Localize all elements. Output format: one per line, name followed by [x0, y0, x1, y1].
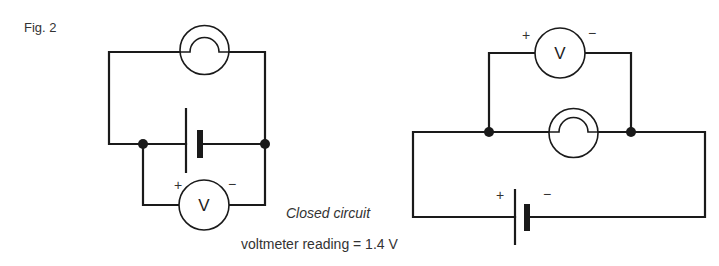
battery-icon	[515, 189, 527, 245]
voltmeter-minus-sign: −	[228, 176, 236, 192]
lamp-icon	[180, 26, 229, 75]
voltmeter-plus-sign: +	[174, 177, 182, 193]
figure-caption: Closed circuit	[286, 205, 370, 221]
junction-node	[484, 127, 494, 137]
voltmeter-plus-sign: +	[522, 27, 530, 43]
junction-node	[626, 127, 636, 137]
battery-minus-sign: −	[543, 186, 551, 202]
right-voltmeter-wire-left	[489, 53, 535, 132]
voltmeter-symbol: V	[554, 44, 566, 63]
left-circuit: V + −	[109, 26, 270, 231]
battery-plus-sign: +	[496, 187, 504, 203]
left-voltmeter-wire-right	[229, 144, 265, 205]
left-outer-wire-left	[109, 52, 186, 144]
voltmeter-icon: V	[179, 180, 229, 230]
circuit-diagrams: V + − V + − + −	[0, 0, 719, 266]
voltmeter-symbol: V	[198, 196, 210, 215]
voltmeter-minus-sign: −	[588, 25, 596, 41]
voltmeter-reading: voltmeter reading = 1.4 V	[241, 236, 398, 252]
battery-icon	[186, 108, 200, 173]
right-circuit: V + − + −	[413, 25, 705, 245]
voltmeter-icon: V	[535, 28, 585, 78]
left-voltmeter-wire-left	[143, 144, 179, 205]
lamp-icon	[549, 109, 598, 158]
